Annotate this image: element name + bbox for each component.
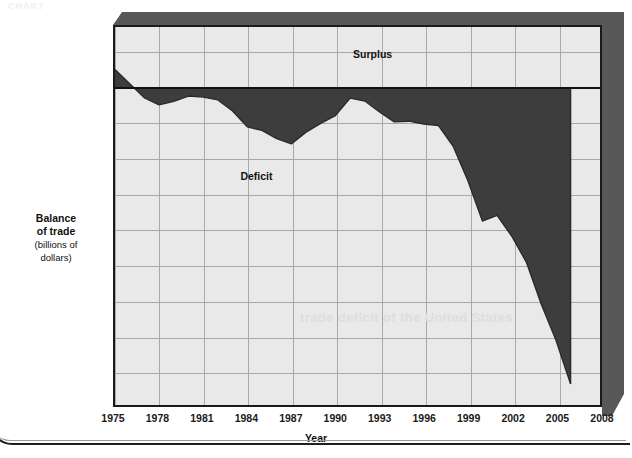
x-tick-label: 2002 — [490, 412, 536, 424]
balance-of-trade-chart: trade deficit of the United States 1000−… — [0, 0, 632, 458]
x-tick-label: 2005 — [535, 412, 581, 424]
x-tick-label: 1981 — [179, 412, 225, 424]
y-axis-title-line-2: of trade — [6, 225, 106, 238]
y-axis-title-line-4: dollars) — [6, 251, 106, 264]
x-tick-label: 1975 — [90, 412, 136, 424]
x-tick-label: 1984 — [223, 412, 269, 424]
trade-balance-filled-area — [115, 69, 571, 383]
trade-balance-area-series — [115, 27, 600, 406]
y-axis-title-line-3: (billions of — [6, 238, 106, 251]
plot-area — [113, 25, 602, 407]
y-axis-title-line-1: Balance — [6, 212, 106, 225]
plot-top-bevel — [113, 12, 611, 25]
x-tick-label: 1990 — [312, 412, 358, 424]
x-tick-label: 1978 — [134, 412, 180, 424]
plot-right-bevel — [602, 12, 624, 416]
surplus-label: Surplus — [353, 48, 392, 60]
x-tick-label: 1987 — [268, 412, 314, 424]
x-tick-label: 2008 — [579, 412, 625, 424]
zero-baseline — [115, 87, 600, 89]
y-axis-title: Balance of trade (billions of dollars) — [6, 212, 106, 264]
x-tick-label: 1996 — [401, 412, 447, 424]
x-tick-label: 1999 — [446, 412, 492, 424]
x-axis-title: Year — [0, 432, 632, 444]
deficit-label: Deficit — [240, 170, 272, 182]
figure-page: CHART trade deficit of the United States… — [0, 0, 632, 458]
x-tick-label: 1993 — [357, 412, 403, 424]
